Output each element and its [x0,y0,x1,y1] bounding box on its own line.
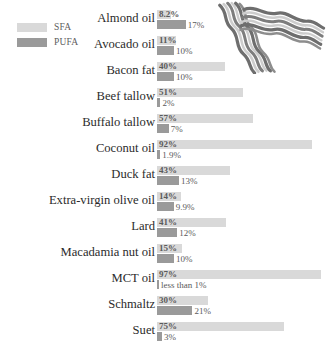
bar-value-pufa: 9.9% [176,202,195,212]
category-label: Schmaltz [0,297,155,312]
bar-row: Avocado oil11%10% [0,34,326,60]
bar-group: 15%10% [157,243,326,267]
bar-pufa [157,150,160,159]
bar-value-pufa: 10% [176,72,193,82]
category-label: Duck fat [0,167,155,182]
category-label: Suet [0,323,155,338]
category-label: Macadamia nut oil [0,245,155,260]
category-label: Extra-virgin olive oil [0,193,155,208]
bar-value-sfa: 11% [159,35,177,45]
bar-group: 14%9.9% [157,191,326,215]
bar-group: 75%3% [157,321,326,345]
category-label: Buffalo tallow [0,115,155,130]
bar-row: Bacon fat40%10% [0,60,326,86]
bar-pufa [157,176,179,185]
bar-pufa [157,124,169,133]
bar-pufa [157,332,162,341]
category-label: Lard [0,219,155,234]
category-label: Bacon fat [0,63,155,78]
bar-value-sfa: 41% [159,217,177,227]
bar-pufa [157,72,174,81]
bar-row: Suet75%3% [0,320,326,346]
bar-value-pufa: 2% [162,98,174,108]
bar-value-pufa: 21% [194,306,211,316]
bar-value-sfa: 43% [159,165,177,175]
bar-value-pufa: less than 1% [161,280,207,290]
bar-value-sfa: 40% [159,61,177,71]
bar-value-sfa: 57% [159,113,177,123]
bar-value-pufa: 17% [188,20,205,30]
bar-value-sfa: 14% [159,191,177,201]
bar-value-sfa: 15% [159,243,177,253]
bar-value-pufa: 7% [171,124,183,134]
bar-group: 8.2%17% [157,9,326,33]
category-label: Avocado oil [0,37,155,52]
bar-group: 11%10% [157,35,326,59]
bar-row: Buffalo tallow57%7% [0,112,326,138]
bar-group: 40%10% [157,61,326,85]
bar-group: 30%21% [157,295,326,319]
bar-value-sfa: 75% [159,321,177,331]
bar-group: 97%less than 1% [157,269,326,293]
bar-group: 41%12% [157,217,326,241]
bar-sfa [157,140,312,149]
bar-value-pufa: 13% [181,176,198,186]
bar-row: Beef tallow51%2% [0,86,326,112]
bar-rows: Almond oil8.2%17%Avocado oil11%10%Bacon … [0,8,326,346]
bar-group: 57%7% [157,113,326,137]
bar-pufa [157,202,174,211]
bar-row: Lard41%12% [0,216,326,242]
category-label: Beef tallow [0,89,155,104]
bar-row: Coconut oil92%1.9% [0,138,326,164]
category-label: Coconut oil [0,141,155,156]
bar-group: 43%13% [157,165,326,189]
bar-group: 51%2% [157,87,326,111]
bar-pufa [157,254,174,263]
bar-value-pufa: 10% [176,254,193,264]
bar-sfa [157,270,321,279]
bar-value-pufa: 10% [176,46,193,56]
bar-chart: SFA PUFA [0,0,326,360]
bar-row: Schmaltz30%21% [0,294,326,320]
bar-value-sfa: 8.2% [159,9,179,19]
bar-row: Almond oil8.2%17% [0,8,326,34]
bar-pufa [157,228,177,237]
category-label: MCT oil [0,271,155,286]
bar-pufa [157,98,160,107]
category-label: Almond oil [0,11,155,26]
bar-value-sfa: 97% [159,269,177,279]
bar-row: MCT oil97%less than 1% [0,268,326,294]
bar-value-pufa: 1.9% [162,150,181,160]
bar-row: Duck fat43%13% [0,164,326,190]
bar-row: Macadamia nut oil15%10% [0,242,326,268]
bar-value-pufa: 12% [179,228,196,238]
bar-group: 92%1.9% [157,139,326,163]
bar-value-sfa: 30% [159,295,177,305]
bar-row: Extra-virgin olive oil14%9.9% [0,190,326,216]
bar-value-sfa: 51% [159,87,177,97]
bar-pufa [157,46,174,55]
bar-value-sfa: 92% [159,139,177,149]
bar-pufa [157,306,192,315]
bar-pufa [157,280,159,289]
bar-value-pufa: 3% [164,332,176,342]
bar-pufa [157,20,186,29]
